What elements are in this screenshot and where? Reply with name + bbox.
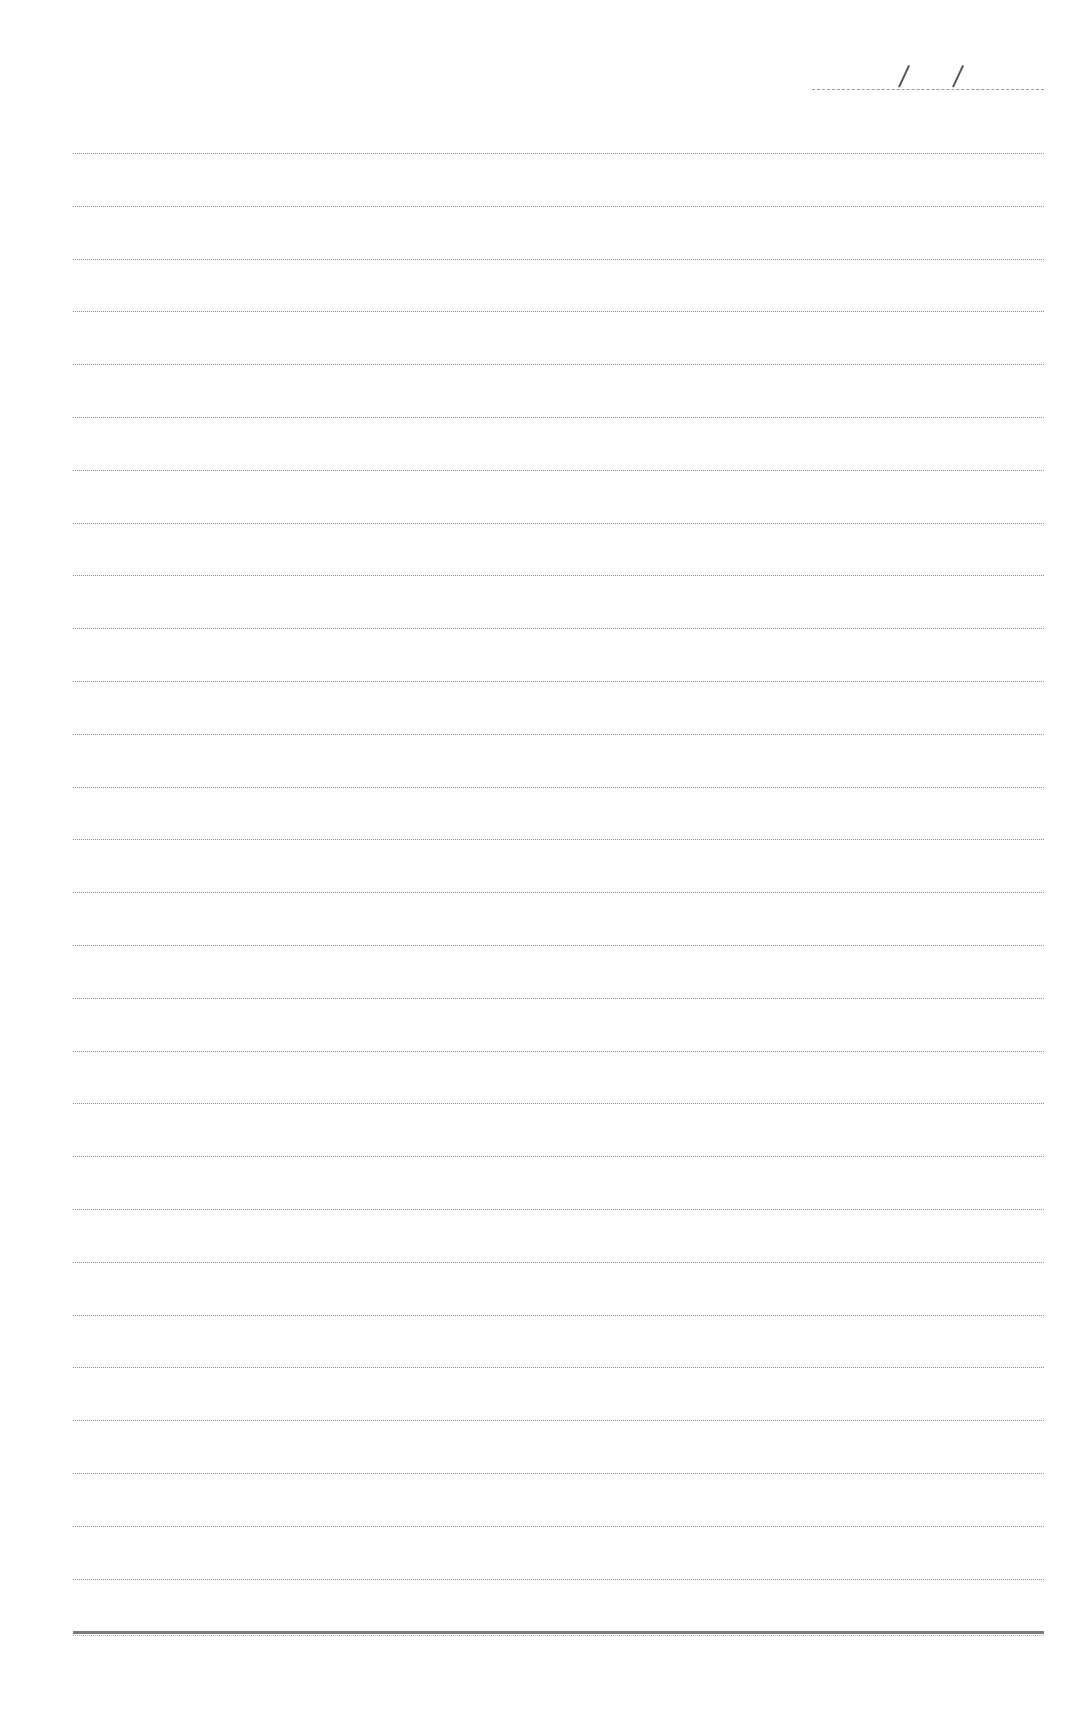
rule-line [73,206,1044,207]
rule-line [73,787,1044,788]
rule-line [73,259,1044,260]
writing-area[interactable] [73,0,1044,1726]
rule-line [73,1262,1044,1263]
rule-line [73,575,1044,576]
rule-line [73,1103,1044,1104]
rule-line [73,1156,1044,1157]
rule-line [73,892,1044,893]
rule-line [73,417,1044,418]
rule-line [73,1420,1044,1421]
rule-line [73,839,1044,840]
rule-line [73,364,1044,365]
rule-line [73,311,1044,312]
rule-line [73,1209,1044,1210]
rule-line [73,1526,1044,1527]
bottom-rule-line [73,1631,1044,1634]
rule-line [73,998,1044,999]
rule-line [73,628,1044,629]
rule-line [73,1367,1044,1368]
rule-line [73,1579,1044,1580]
rule-line [73,734,1044,735]
rule-line [73,1315,1044,1316]
rule-line [73,681,1044,682]
rule-line [73,1473,1044,1474]
rule-line [73,945,1044,946]
rule-line [73,153,1044,154]
rule-line [73,1051,1044,1052]
rule-line [73,523,1044,524]
rule-line [73,470,1044,471]
